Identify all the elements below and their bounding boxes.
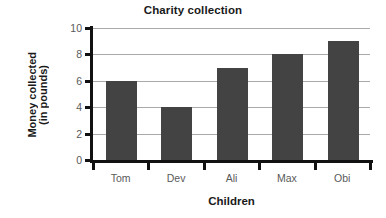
x-tick	[147, 162, 150, 170]
x-tick	[203, 162, 206, 170]
y-axis-title-line-2: (in pounds)	[38, 65, 49, 125]
x-tick	[314, 162, 317, 170]
y-tick-label: 4	[58, 101, 82, 113]
x-tick-label-tom: Tom	[93, 172, 148, 184]
bar-dev[interactable]	[161, 107, 192, 160]
y-tick-label: 8	[58, 48, 82, 60]
y-tick-label: 6	[58, 75, 82, 87]
x-tick-label-dev: Dev	[148, 172, 203, 184]
x-axis-line	[90, 160, 373, 163]
y-tick-label: 0	[58, 154, 82, 166]
y-tick	[85, 133, 91, 136]
bar-slot	[93, 28, 150, 160]
y-tick-label: 2	[58, 128, 82, 140]
bar-ali[interactable]	[217, 68, 248, 160]
plot-area	[93, 28, 370, 160]
y-tick	[85, 53, 91, 56]
x-tick	[258, 162, 261, 170]
bars-group	[93, 28, 370, 160]
chart-title: Charity collection	[0, 4, 386, 16]
x-tick-label-obi: Obi	[315, 172, 370, 184]
bar-slot	[315, 28, 372, 160]
y-axis-line	[90, 26, 93, 162]
bar-slot	[148, 28, 205, 160]
x-tick	[369, 162, 372, 170]
bar-max[interactable]	[272, 54, 303, 160]
bar-obi[interactable]	[328, 41, 359, 160]
y-tick	[85, 80, 91, 83]
y-tick	[85, 27, 91, 30]
y-tick	[85, 106, 91, 109]
y-tick-label: 10	[58, 22, 82, 34]
x-tick	[92, 162, 95, 170]
bar-slot	[259, 28, 316, 160]
x-tick-label-ali: Ali	[204, 172, 259, 184]
x-axis-title: Children	[93, 195, 370, 207]
bar-chart-figure: Charity collection Money collected (in p…	[0, 0, 386, 218]
bar-tom[interactable]	[106, 81, 137, 160]
y-tick	[85, 159, 91, 162]
bar-slot	[204, 28, 261, 160]
x-tick-label-max: Max	[259, 172, 314, 184]
